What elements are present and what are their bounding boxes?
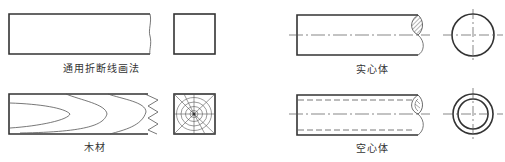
hollow-body-side-view <box>289 95 430 135</box>
hollow-body-end-view <box>443 88 503 141</box>
wood-end-view <box>174 94 215 134</box>
general-break-end-view <box>174 14 215 54</box>
solid-body-side-view <box>289 15 430 55</box>
solid-body-label: 实心体 <box>356 64 389 76</box>
wood-side-view <box>9 94 158 134</box>
general-break-label: 通用折断线画法 <box>63 63 140 75</box>
break-line-diagram <box>0 0 505 162</box>
solid-body-end-view <box>443 9 503 62</box>
wood-label: 木材 <box>84 142 106 154</box>
hollow-body-label: 空心体 <box>356 143 389 155</box>
general-break-side-view <box>9 14 151 54</box>
